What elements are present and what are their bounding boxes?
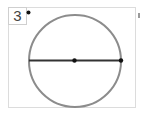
center-point (72, 58, 76, 62)
circle-diagram (0, 0, 141, 113)
endpoint (119, 58, 123, 62)
marker-dot (27, 11, 31, 15)
